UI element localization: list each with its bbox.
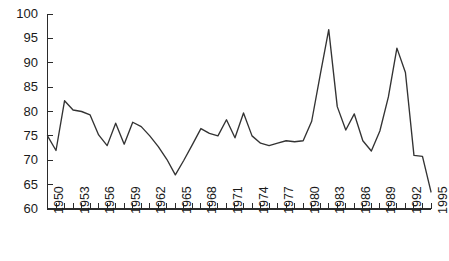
x-tick-label: 1953 [79, 186, 92, 214]
x-tick-label: 1956 [104, 186, 117, 214]
x-tick-label: 1962 [155, 186, 168, 214]
axes-group [48, 14, 432, 209]
data-series-line [48, 30, 432, 192]
x-tick-label: 1980 [309, 186, 322, 214]
y-tick-label: 65 [0, 178, 38, 191]
x-tick-label: 1995 [437, 186, 449, 214]
x-tick-label: 1986 [360, 186, 373, 214]
x-tick-label: 1989 [385, 186, 398, 214]
y-tick-label: 75 [0, 129, 38, 142]
y-tick-label: 100 [0, 7, 38, 20]
line-chart: 6065707580859095100 19501953195619591962… [0, 0, 449, 261]
y-tick-label: 95 [0, 31, 38, 44]
x-tick-label: 1983 [334, 186, 347, 214]
axis-lines [48, 14, 432, 209]
y-tick-label: 80 [0, 105, 38, 118]
y-tick-label: 60 [0, 202, 38, 215]
y-tick-label: 70 [0, 153, 38, 166]
x-tick-label: 1950 [53, 186, 66, 214]
x-tick-label: 1977 [283, 186, 296, 214]
x-tick-label: 1965 [181, 186, 194, 214]
y-tick-label: 90 [0, 56, 38, 69]
tick-marks-group [48, 14, 432, 209]
x-tick-label: 1974 [258, 186, 271, 214]
x-tick-label: 1959 [130, 186, 143, 214]
x-tick-label: 1968 [206, 186, 219, 214]
y-tick-label: 85 [0, 80, 38, 93]
x-tick-label: 1971 [232, 186, 245, 214]
x-tick-label: 1992 [411, 186, 424, 214]
chart-plot-area [0, 0, 449, 261]
